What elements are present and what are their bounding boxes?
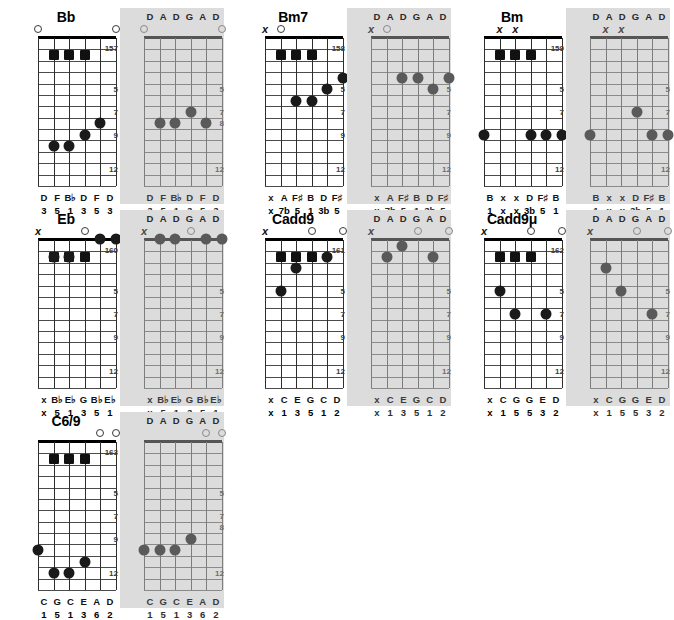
fret-number-9: 9 (431, 130, 451, 139)
fretwire-1 (590, 49, 668, 50)
tuning-note-4: A (197, 415, 209, 426)
note-name-row: xB♭E♭GB♭E♭ (144, 394, 222, 405)
nut (265, 36, 343, 39)
finger-dot-1 (48, 567, 59, 578)
tuning-note-2: D (397, 11, 409, 22)
fretwire-1 (590, 251, 668, 252)
tuning-note-5: D (210, 415, 222, 426)
barre-marker-1 (495, 50, 505, 60)
note-name-4: D (424, 192, 436, 203)
fretwire-5 (371, 95, 449, 96)
finger-dot-2 (201, 234, 212, 245)
finger-dot-0 (479, 129, 490, 140)
finger-dot-3 (79, 556, 90, 567)
fretwire-2 (590, 61, 668, 62)
finger-dot-0 (139, 545, 150, 556)
fret-number-7: 7 (650, 108, 670, 117)
fretwire-12 (484, 175, 562, 176)
fretwire-10 (144, 354, 222, 355)
fretwire-12 (144, 579, 222, 580)
fretwire-2 (371, 61, 449, 62)
string-3 (191, 442, 192, 590)
finger-dot-0 (48, 252, 59, 263)
string-0 (484, 240, 485, 388)
chord-group-bb: Bb57912157DFB♭DFD351353DADGAD57812DFB♭DF… (14, 8, 224, 204)
fretwire-7 (590, 320, 668, 321)
note-name-4: F♯ (537, 192, 549, 203)
fretwire-1 (144, 49, 222, 50)
degree-row: x13512 (265, 407, 343, 418)
note-name-row: DFB♭DFD (144, 192, 222, 203)
string-3 (418, 240, 419, 388)
muted-string-marker-0: x (262, 24, 268, 35)
string-1 (281, 240, 282, 388)
note-name-3: G (305, 394, 317, 405)
degree-5: 2 (104, 609, 116, 620)
chord-title-3: Eb (14, 211, 118, 227)
barre-marker-3 (80, 50, 90, 60)
fretwire-3 (371, 274, 449, 275)
tuning-note-3: G (184, 415, 196, 426)
fretwire-2 (371, 263, 449, 264)
degree-3: 5 (305, 407, 317, 418)
fretwire-12 (38, 579, 116, 580)
chord-group-cadd9mu: Cadd9μ57912162xxCGGEDx15532DADGAD57912xx… (460, 210, 670, 406)
degree-3: 5 (411, 407, 423, 418)
note-name-1: C (278, 394, 290, 405)
muted-string-marker-0: x (262, 226, 268, 237)
note-name-1: C (497, 394, 509, 405)
degree-0: x (590, 407, 602, 418)
degree-0: x (371, 407, 383, 418)
string-0 (38, 38, 39, 186)
barre-marker-2 (291, 50, 301, 60)
fretwire-9 (38, 544, 116, 545)
tuning-note-1: A (157, 213, 169, 224)
string-2 (69, 38, 70, 186)
fretwire-7 (265, 118, 343, 119)
fret-number-7: 7 (325, 108, 345, 117)
note-name-2: C (64, 596, 76, 607)
fretwire-13 (144, 590, 222, 591)
chord-title-5: Cadd9μ (460, 211, 564, 227)
degree-1: 1 (384, 407, 396, 418)
string-2 (402, 240, 403, 388)
string-1 (387, 38, 388, 186)
fret-number-9: 9 (544, 332, 564, 341)
figure-number: 160 (98, 246, 118, 255)
fretwire-2 (265, 263, 343, 264)
barre-marker-3 (80, 454, 90, 464)
fretwire-9 (484, 342, 562, 343)
finger-dot-2 (428, 252, 439, 263)
fretwire-2 (38, 263, 116, 264)
figure-number: 163 (98, 448, 118, 457)
note-name-3: G (630, 394, 642, 405)
fret-number-12: 12 (325, 164, 345, 173)
fretwire-2 (38, 61, 116, 62)
note-name-0: C (38, 596, 50, 607)
finger-dot-3 (201, 118, 212, 129)
chord-group-c69: C6/957912163CGCEAD151362DADGAD57812CGCEA… (14, 412, 224, 608)
note-name-4: A (91, 596, 103, 607)
note-name-0: x (590, 394, 602, 405)
fretwire-9 (484, 140, 562, 141)
string-3 (85, 442, 86, 590)
degree-2: 1 (64, 609, 76, 620)
fretwire-13 (38, 590, 116, 591)
fretwire-13 (38, 186, 116, 187)
fret-number-5: 5 (544, 85, 564, 94)
barre-marker-2 (510, 252, 520, 262)
fretwire-9 (38, 342, 116, 343)
fretwire-5 (144, 95, 222, 96)
figure-number: 159 (544, 44, 564, 53)
fret-number-7: 7 (204, 512, 224, 521)
fretwire-12 (265, 377, 343, 378)
fretwire-3 (38, 476, 116, 477)
string-3 (531, 38, 532, 186)
fret-number-12: 12 (431, 366, 451, 375)
fretwire-2 (265, 61, 343, 62)
fret-number-7: 7 (204, 108, 224, 117)
note-name-5: E♭ (104, 394, 116, 405)
note-name-row: BxxDF♯B (484, 192, 562, 203)
fretwire-10 (38, 354, 116, 355)
open-string-marker-1 (383, 25, 391, 33)
